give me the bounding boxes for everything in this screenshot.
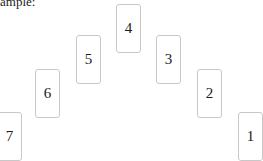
card-number: 1 xyxy=(247,128,255,145)
caption-text: ample: xyxy=(0,0,35,10)
card-4: 4 xyxy=(116,4,141,53)
card-number: 7 xyxy=(6,128,14,145)
card-2: 2 xyxy=(197,69,222,118)
card-number: 3 xyxy=(165,51,173,68)
card-number: 6 xyxy=(44,85,52,102)
card-number: 4 xyxy=(125,20,133,37)
card-number: 5 xyxy=(85,51,93,68)
card-number: 2 xyxy=(206,85,214,102)
card-3: 3 xyxy=(156,35,181,84)
card-5: 5 xyxy=(76,35,101,84)
card-6: 6 xyxy=(35,69,60,118)
card-1: 1 xyxy=(238,112,263,161)
card-7: 7 xyxy=(0,112,22,161)
